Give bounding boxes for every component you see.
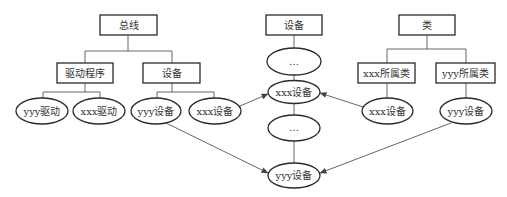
drivers-node: 驱动程序: [57, 63, 113, 83]
class-device-yyy-label: yyy设备: [447, 105, 485, 117]
bus-devices-label: 设备: [162, 67, 182, 79]
chain-device-yyy-label: yyy设备: [275, 169, 313, 181]
ellipsis-top-node: …: [267, 48, 321, 75]
arrow-bus-yyy-to-chain-yyy: [166, 123, 268, 173]
bus-device-yyy-label: yyy设备: [137, 105, 175, 117]
class-root-node: 类: [399, 15, 455, 35]
chain-device-xxx-label: xxx设备: [276, 86, 313, 98]
driver-yyy-node: yyy驱动: [16, 98, 68, 124]
ellipsis-mid-node: …: [268, 115, 320, 141]
edge-drivers-to-children: [43, 83, 100, 98]
bus-device-xxx-label: xxx设备: [197, 105, 234, 117]
device-chain: 设备 … xxx设备 … yyy设备: [266, 15, 322, 188]
device-root-node: 设备: [266, 15, 322, 35]
bus-label: 总线: [119, 19, 139, 31]
ellipsis-mid-label: …: [289, 122, 299, 133]
driver-yyy-label: yyy驱动: [23, 106, 61, 117]
device-root-label: 设备: [284, 19, 304, 31]
drivers-label: 驱动程序: [65, 67, 105, 79]
arrow-class-xxx-to-chain-xxx: [320, 93, 363, 107]
class-device-xxx-node: xxx设备: [362, 98, 413, 124]
class-device-yyy-node: yyy设备: [440, 98, 492, 124]
bus-node: 总线: [100, 15, 157, 35]
bus-tree: 总线 驱动程序 设备 yyy驱动 xxx驱动 yyy设备 xxx设备: [16, 15, 241, 124]
class-xxx-label: xxx所属类: [363, 67, 410, 79]
edge-class-to-children: [387, 35, 466, 63]
bus-device-xxx-node: xxx设备: [189, 98, 241, 124]
device-model-diagram: 总线 驱动程序 设备 yyy驱动 xxx驱动 yyy设备 xxx设备: [0, 0, 507, 197]
class-xxx-node: xxx所属类: [358, 63, 415, 83]
ellipsis-top-label: …: [289, 56, 299, 67]
bus-devices-node: 设备: [143, 63, 200, 83]
class-root-label: 类: [422, 19, 432, 31]
arrow-bus-xxx-to-chain-xxx: [240, 94, 268, 106]
class-yyy-label: yyy所属类: [441, 67, 489, 79]
edge-devices-to-children: [157, 83, 214, 98]
bus-device-yyy-node: yyy设备: [131, 98, 181, 124]
class-tree: 类 xxx所属类 yyy所属类 xxx设备 yyy设备: [358, 15, 495, 124]
driver-xxx-label: xxx驱动: [81, 106, 118, 117]
chain-device-yyy-node: yyy设备: [268, 163, 320, 188]
chain-device-xxx-node: xxx设备: [268, 81, 320, 104]
arrow-class-yyy-to-chain-yyy: [320, 123, 451, 173]
edge-bus-to-children: [85, 35, 172, 63]
class-device-xxx-label: xxx设备: [369, 105, 406, 117]
driver-xxx-node: xxx驱动: [73, 98, 125, 124]
class-yyy-node: yyy所属类: [436, 63, 495, 83]
